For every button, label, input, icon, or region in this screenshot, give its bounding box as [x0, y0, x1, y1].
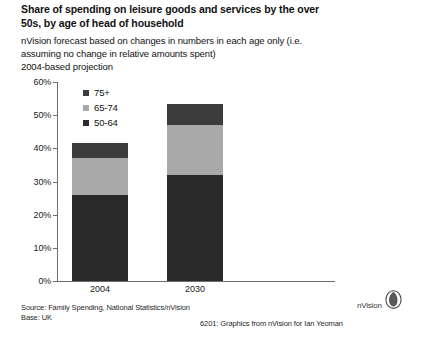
- y-axis-tick-label-text: 40%: [3, 144, 51, 153]
- legend-item-label: 65-74: [94, 103, 118, 113]
- bar-segment-75plus: [72, 143, 128, 158]
- legend-item-label: 75+: [94, 88, 110, 98]
- y-axis-tick-mark: [53, 82, 57, 83]
- y-axis-tick-label: 20%: [0, 211, 51, 220]
- y-axis-tick-mark: [53, 148, 57, 149]
- legend-swatch-icon: [83, 105, 89, 111]
- y-axis-tick-label: 40%: [0, 144, 51, 153]
- y-axis-tick-label: 10%: [0, 244, 51, 253]
- y-axis-tick-label: 60%: [0, 78, 51, 87]
- x-axis-label-2030: 2030: [167, 284, 223, 294]
- legend-swatch-icon: [83, 90, 89, 96]
- x-axis-line: [57, 281, 335, 282]
- y-axis-tick-label: 0%: [0, 277, 51, 286]
- bar-segment-50-64: [72, 195, 128, 281]
- chart-screenshot: Share of spending on leisure goods and s…: [0, 0, 429, 338]
- legend-swatch-icon: [83, 120, 89, 126]
- y-axis-tick-label: 50%: [0, 111, 51, 120]
- legend-item-75plus[interactable]: 75+: [83, 86, 118, 99]
- credit-note: 6201: Graphics from nVision for Ian Yeom…: [200, 319, 343, 329]
- y-axis-tick-mark: [53, 248, 57, 249]
- y-axis-tick-mark: [53, 215, 57, 216]
- source-line: Source: Family Spending, National Statis…: [21, 303, 190, 313]
- nvision-logo-text: nVision: [357, 301, 382, 310]
- base-line: Base: UK: [21, 313, 190, 323]
- y-axis-tick-label: 30%: [0, 178, 51, 187]
- legend-item-label: 50-64: [94, 118, 118, 128]
- nvision-circle-logo-icon: [385, 290, 402, 313]
- plot-area: 60%50%40%30%20%10%0% 20042030: [0, 0, 429, 338]
- bar-2004: [72, 143, 128, 281]
- y-axis-tick-label-text: 20%: [3, 211, 51, 220]
- y-axis-tick-mark: [53, 115, 57, 116]
- bar-2030: [167, 104, 223, 281]
- x-axis-label-2004: 2004: [72, 284, 128, 294]
- bar-segment-50-64: [167, 175, 223, 281]
- bar-segment-65-74: [167, 125, 223, 175]
- y-axis-tick-label-text: 10%: [3, 244, 51, 253]
- y-axis-tick-mark: [53, 182, 57, 183]
- legend-item-50-64[interactable]: 50-64: [83, 116, 118, 129]
- source-note: Source: Family Spending, National Statis…: [21, 303, 190, 323]
- y-axis-tick-mark: [53, 281, 57, 282]
- y-axis-tick-label-text: 50%: [3, 111, 51, 120]
- y-axis-tick-label-text: 60%: [3, 78, 51, 87]
- y-axis-tick-label-text: 30%: [3, 178, 51, 187]
- y-axis-line: [57, 82, 58, 281]
- chart-legend: 75+65-7450-64: [83, 86, 118, 131]
- legend-item-65-74[interactable]: 65-74: [83, 101, 118, 114]
- y-axis-tick-label-text: 0%: [3, 277, 51, 286]
- nvision-logo: nVision: [357, 290, 403, 316]
- bar-segment-65-74: [72, 158, 128, 194]
- bar-segment-75plus: [167, 104, 223, 126]
